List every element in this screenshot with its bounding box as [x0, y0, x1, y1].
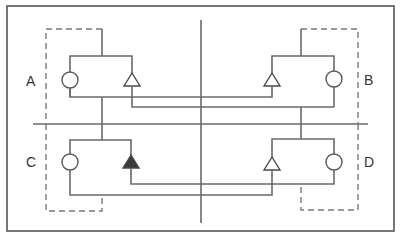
- a-bottom-to-b-triangle: [70, 86, 272, 97]
- unit-c-triangle-filled-icon: [123, 155, 139, 168]
- unit-c-loop: [70, 140, 131, 155]
- unit-d: [264, 124, 358, 210]
- unit-c: [46, 124, 139, 211]
- unit-b-loop: [272, 56, 334, 107]
- c-triangle-to-d-bottom: [131, 168, 334, 184]
- unit-a: [46, 29, 140, 124]
- unit-a-circle-icon: [62, 72, 78, 88]
- unit-b: [264, 29, 358, 124]
- unit-d-triangle-icon: [264, 157, 280, 170]
- unit-b-label: B: [364, 72, 373, 88]
- c-bottom-to-d-triangle: [70, 170, 272, 195]
- unit-b-triangle-icon: [264, 73, 280, 86]
- unit-b-circle-icon: [326, 71, 342, 87]
- unit-c-circle-icon: [62, 154, 78, 170]
- unit-a-label: A: [26, 73, 36, 89]
- unit-d-label: D: [364, 154, 374, 170]
- unit-a-loop: [70, 56, 132, 97]
- unit-a-triangle-icon: [124, 73, 140, 86]
- unit-d-loop: [272, 139, 334, 157]
- diagram-canvas: A B C D: [0, 0, 400, 237]
- unit-d-circle-icon: [326, 154, 342, 170]
- unit-c-label: C: [26, 154, 36, 170]
